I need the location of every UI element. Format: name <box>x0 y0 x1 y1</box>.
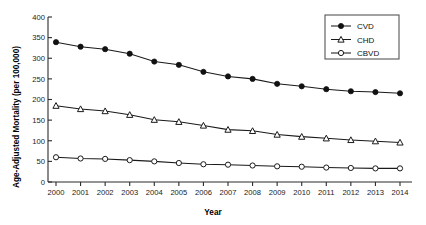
x-tick-label: 2011 <box>318 188 334 197</box>
chart-legend: CVDCHDCBVD <box>325 15 399 59</box>
x-tick-label: 2010 <box>293 188 310 197</box>
data-point-marker <box>348 89 353 94</box>
data-point-marker <box>275 81 280 86</box>
y-tick-label: 50 <box>37 157 45 166</box>
x-tick-label: 2000 <box>48 188 65 197</box>
legend-label-cvd: CVD <box>357 22 374 31</box>
x-tick-label: 2003 <box>121 188 138 197</box>
x-tick-label: 2005 <box>170 188 187 197</box>
data-point-marker <box>176 62 181 67</box>
y-tick-label: 250 <box>32 75 45 84</box>
data-point-marker <box>225 74 230 79</box>
data-point-marker <box>225 162 230 167</box>
x-tick-label: 2004 <box>146 188 163 197</box>
data-point-marker <box>78 44 83 49</box>
legend-label-chd: CHD <box>357 36 375 45</box>
x-tick-label: 2012 <box>342 188 359 197</box>
data-point-marker <box>250 76 255 81</box>
data-point-marker <box>127 51 132 56</box>
data-point-marker <box>397 91 402 96</box>
data-point-marker <box>397 166 402 171</box>
x-tick-label: 2006 <box>195 188 212 197</box>
data-point-marker <box>127 158 132 163</box>
data-point-marker <box>152 59 157 64</box>
y-tick-label: 350 <box>32 33 45 42</box>
data-point-marker <box>299 84 304 89</box>
data-point-marker <box>324 165 329 170</box>
data-point-marker <box>250 163 255 168</box>
data-point-marker <box>201 69 206 74</box>
x-tick-label: 2007 <box>220 188 237 197</box>
x-axis-title: Year <box>204 208 222 217</box>
y-tick-label: 150 <box>32 116 45 125</box>
data-point-marker <box>348 165 353 170</box>
data-point-marker <box>275 164 280 169</box>
data-point-marker <box>338 50 343 55</box>
x-tick-label: 2001 <box>72 188 89 197</box>
y-tick-label: 100 <box>32 137 45 146</box>
y-tick-label: 0 <box>41 178 45 187</box>
y-tick-label: 300 <box>32 54 45 63</box>
data-point-marker <box>373 166 378 171</box>
data-point-marker <box>324 87 329 92</box>
x-tick-label: 2008 <box>244 188 261 197</box>
data-point-marker <box>176 160 181 165</box>
y-tick-label: 200 <box>32 95 45 104</box>
data-point-marker <box>53 40 58 45</box>
data-point-marker <box>53 155 58 160</box>
line-chart: Age-Adjusted Mortality (per 100,000) 050… <box>0 0 426 225</box>
data-point-marker <box>373 89 378 94</box>
data-point-marker <box>103 156 108 161</box>
legend-label-cbvd: CBVD <box>357 49 379 58</box>
data-point-marker <box>299 164 304 169</box>
chart-container: Age-Adjusted Mortality (per 100,000) 050… <box>0 0 426 225</box>
x-tick-label: 2002 <box>97 188 114 197</box>
y-tick-label: 400 <box>32 13 45 22</box>
x-tick-label: 2009 <box>269 188 286 197</box>
data-point-marker <box>152 159 157 164</box>
y-axis-title-text: Age-Adjusted Mortality (per 100,000) <box>12 46 21 188</box>
x-tick-label: 2013 <box>367 188 384 197</box>
y-axis-title: Age-Adjusted Mortality (per 100,000) <box>12 46 21 188</box>
data-point-marker <box>103 47 108 52</box>
data-point-marker <box>201 162 206 167</box>
data-point-marker <box>338 23 343 28</box>
data-point-marker <box>78 156 83 161</box>
x-tick-label: 2014 <box>392 188 409 197</box>
